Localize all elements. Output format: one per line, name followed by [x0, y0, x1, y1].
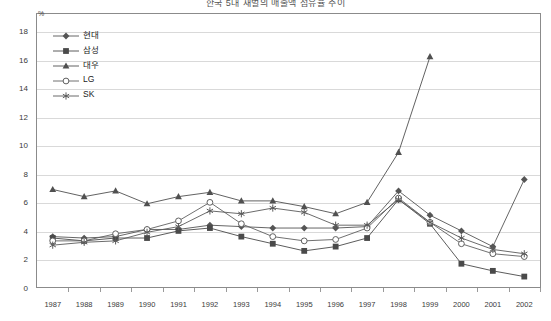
legend-item-LG[interactable]: LG: [52, 71, 99, 86]
data-point-filled-square: [301, 248, 307, 254]
data-point-filled-square: [144, 235, 150, 241]
data-point-filled-triangle: [364, 199, 371, 205]
legend-label: SK: [83, 89, 94, 99]
data-point-filled-square: [364, 235, 370, 241]
data-point-filled-diamond: [63, 32, 70, 39]
series-삼성: [50, 197, 527, 280]
data-point-open-circle: [270, 234, 276, 240]
data-point-filled-diamond: [269, 225, 276, 232]
series-LG: [50, 195, 527, 259]
data-point-filled-square: [459, 261, 465, 267]
data-point-filled-triangle: [49, 186, 56, 192]
data-point-filled-square: [333, 244, 339, 250]
legend-label: 대우: [83, 58, 99, 70]
data-point-open-circle: [63, 78, 69, 84]
data-point-filled-triangle: [112, 187, 119, 193]
data-point-filled-diamond: [301, 225, 308, 232]
series-SK: [50, 196, 528, 257]
legend-item-대우[interactable]: 대우: [52, 56, 99, 71]
legend-label: 삼성: [83, 43, 99, 55]
data-point-open-circle: [238, 221, 244, 227]
data-point-open-circle: [459, 241, 465, 247]
legend-item-SK[interactable]: SK: [52, 86, 99, 101]
data-point-open-circle: [176, 218, 182, 224]
data-point-open-circle: [301, 238, 307, 244]
data-point-filled-square: [63, 48, 69, 54]
data-point-filled-square: [270, 241, 276, 247]
legend-marker-asterisk-icon: [52, 88, 80, 100]
legend-item-삼성[interactable]: 삼성: [52, 41, 99, 56]
data-point-asterisk: [458, 234, 464, 241]
data-point-open-circle: [333, 237, 339, 243]
series-대우: [49, 53, 433, 216]
data-point-filled-square: [521, 274, 527, 280]
legend-marker-filled-square-icon: [52, 43, 80, 55]
legend-label: 현대: [83, 28, 99, 40]
data-point-filled-square: [238, 234, 244, 240]
legend-marker-open-circle-icon: [52, 73, 80, 85]
legend-item-현대[interactable]: 현대: [52, 26, 99, 41]
data-point-filled-diamond: [521, 176, 528, 183]
data-point-open-circle: [207, 199, 213, 205]
data-point-open-circle: [113, 231, 119, 237]
chart-root: 한국 5대 재벌의 매출액 점유율 추이 % 024681012141618 1…: [0, 0, 551, 321]
data-point-filled-square: [490, 268, 496, 274]
data-point-filled-triangle: [427, 53, 434, 59]
data-point-filled-triangle: [63, 62, 70, 68]
data-point-filled-square: [207, 225, 213, 231]
data-point-filled-triangle: [395, 149, 402, 155]
legend-marker-filled-triangle-icon: [52, 58, 80, 70]
data-point-filled-triangle: [269, 197, 276, 203]
data-point-filled-diamond: [458, 227, 465, 234]
legend-marker-filled-diamond-icon: [52, 28, 80, 40]
data-point-filled-triangle: [207, 189, 214, 195]
legend-label: LG: [83, 74, 94, 84]
chart-legend: 현대삼성대우LGSK: [52, 26, 99, 101]
